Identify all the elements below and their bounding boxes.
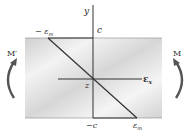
origin-z-label: z [84,81,90,90]
top-c-label: c [97,25,102,35]
left-moment-label: M′ [7,49,17,58]
right-moment-label: M [173,49,181,58]
right-moment-arrow-icon [176,62,182,98]
top-strain-label: − εm [35,27,54,37]
y-axis-label: y [83,6,90,16]
bottom-strain-label: εm [133,121,142,131]
bottom-c-label: −c [86,121,98,130]
strain-distribution-diagram: y c − εm z εx −c εm M′ M [0,0,189,136]
left-moment-arrow-icon [8,62,14,98]
